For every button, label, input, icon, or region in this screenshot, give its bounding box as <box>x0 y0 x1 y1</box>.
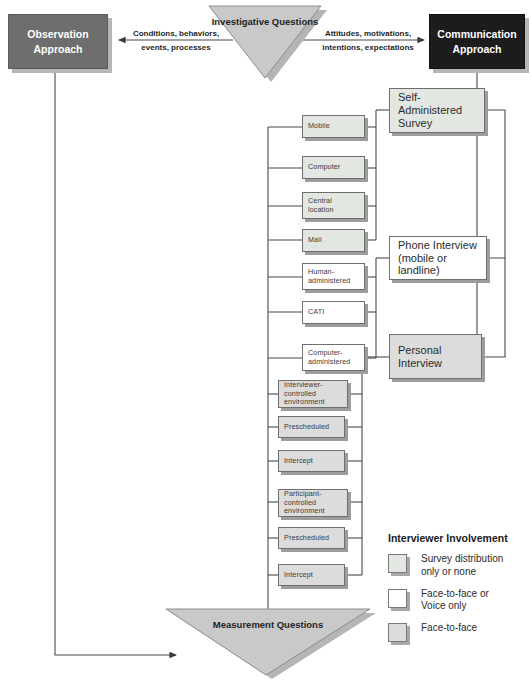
mode-box-intercept-1: Intercept <box>278 450 345 472</box>
communication-approach-box: Communication Approach <box>429 14 525 69</box>
mode-label-central-location: Central location <box>303 197 364 214</box>
method-box-phone-interview: Phone Interview (mobile or landline) <box>389 236 487 280</box>
mode-label-computer-administered: Computer- administered <box>303 349 364 366</box>
mode-label-prescheduled-1: Prescheduled <box>279 423 344 431</box>
mode-box-human-administered: Human- administered <box>302 263 365 290</box>
legend-label-face-to-face-or-voice: Face-to-face or Voice only <box>421 588 489 614</box>
mode-label-computer: Computer <box>303 163 364 171</box>
legend-item-survey-distribution: Survey distribution only or none <box>388 553 508 579</box>
mode-box-mail: Mail <box>302 229 365 252</box>
legend-label-survey-distribution: Survey distribution only or none <box>421 553 503 579</box>
method-box-personal-interview: Personal Interview <box>389 334 482 379</box>
mode-box-prescheduled-1: Prescheduled <box>278 416 345 438</box>
mode-label-participant-controlled: Participant-controlled environment <box>279 490 347 515</box>
mode-box-prescheduled-2: Prescheduled <box>278 527 345 549</box>
mode-label-cati: CATI <box>303 308 364 316</box>
method-box-self-administered-survey: Self-Administered Survey <box>389 88 485 133</box>
legend-label-face-to-face: Face-to-face <box>421 622 477 635</box>
mode-box-computer: Computer <box>302 156 365 179</box>
legend-title: Interviewer Involvement <box>388 532 508 544</box>
method-label-self-administered-survey: Self-Administered Survey <box>390 91 484 130</box>
legend-item-face-to-face: Face-to-face <box>388 622 508 642</box>
method-label-phone-interview: Phone Interview (mobile or landline) <box>390 239 486 278</box>
mode-box-cati: CATI <box>302 301 365 324</box>
mode-label-prescheduled-2: Prescheduled <box>279 534 344 542</box>
mode-box-participant-controlled: Participant-controlled environment <box>278 489 348 517</box>
legend-swatch-gray <box>388 623 407 642</box>
mode-box-central-location: Central location <box>302 192 365 219</box>
legend: Interviewer Involvement Survey distribut… <box>388 532 508 651</box>
mode-box-mobile: Mobile <box>302 115 365 138</box>
investigative-questions-triangle: Investigative Questions <box>205 4 327 82</box>
mode-box-interviewer-controlled: Interviewer-controlled environment <box>278 380 348 408</box>
diagram-canvas: Observation Approach Communication Appro… <box>0 0 532 685</box>
mode-box-intercept-2: Intercept <box>278 564 345 586</box>
observation-approach-box: Observation Approach <box>8 14 108 69</box>
mode-label-human-administered: Human- administered <box>303 268 364 285</box>
communication-approach-label: Communication Approach <box>437 27 516 55</box>
method-label-personal-interview: Personal Interview <box>390 344 481 370</box>
measurement-questions-triangle: Measurement Questions <box>160 607 376 679</box>
legend-swatch-green <box>388 554 407 573</box>
mode-label-interviewer-controlled: Interviewer-controlled environment <box>279 381 347 406</box>
legend-item-face-to-face-or-voice: Face-to-face or Voice only <box>388 588 508 614</box>
observation-approach-label: Observation Approach <box>27 27 88 55</box>
mode-label-mobile: Mobile <box>303 122 364 130</box>
mode-label-mail: Mail <box>303 236 364 244</box>
mode-label-intercept-2: Intercept <box>279 571 344 579</box>
mode-box-computer-administered: Computer- administered <box>302 344 365 371</box>
legend-swatch-white <box>388 589 407 608</box>
mode-label-intercept-1: Intercept <box>279 457 344 465</box>
